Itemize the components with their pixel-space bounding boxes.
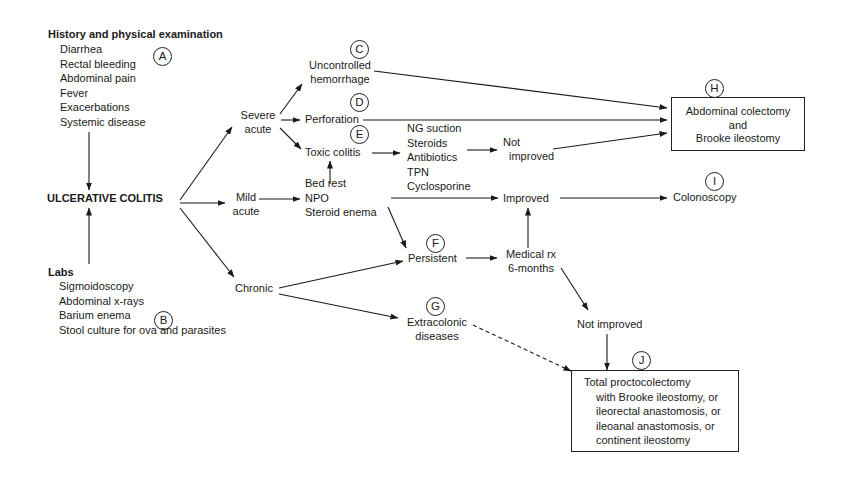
list-item: Abdominal pain (60, 72, 146, 87)
history-list: Diarrhea Rectal bleeding Abdominal pain … (60, 43, 146, 130)
list-item: Steroid enema (305, 206, 377, 221)
list-item: Diarrhea (60, 43, 146, 58)
label-g: G (426, 297, 445, 316)
colectomy-box: Abdominal colectomy and Brooke ileostomy (671, 97, 805, 151)
hemorrhage-node: Uncontrolled hemorrhage (304, 59, 376, 86)
labs-heading: Labs (48, 266, 74, 280)
list-item: Exacerbations (60, 101, 146, 116)
list-item: Barium enema (59, 309, 226, 324)
list-item: TPN (407, 166, 471, 181)
list-item: Sigmoidoscopy (59, 280, 226, 295)
list-item: Systemic disease (60, 116, 146, 131)
label-e: E (350, 125, 369, 144)
mild-treatment-list: Bed rest NPO Steroid enema (305, 177, 377, 221)
list-item: Stool culture for ova and parasites (59, 324, 226, 339)
list-item: Bed rest (305, 177, 377, 192)
labs-list: Sigmoidoscopy Abdominal x-rays Barium en… (59, 280, 226, 338)
list-item: Cyclosporine (407, 180, 471, 195)
colonoscopy-node: Colonoscopy (673, 191, 737, 205)
list-item: Steroids (407, 137, 471, 152)
label-j: J (632, 351, 651, 370)
chronic-node: Chronic (235, 282, 273, 296)
proctocolectomy-box: Total proctocolectomy with Brooke ileost… (571, 370, 739, 452)
list-item: Antibiotics (407, 151, 471, 166)
severe-acute-node: Severe acute (236, 109, 280, 136)
list-item: Abdominal x-rays (59, 295, 226, 310)
perforation-node: Perforation (305, 113, 359, 127)
label-h: H (705, 79, 724, 98)
list-item: Rectal bleeding (60, 58, 146, 73)
not-improved-medical-node: Not improved (577, 318, 642, 332)
toxic-treatment-list: NG suction Steroids Antibiotics TPN Cycl… (407, 122, 471, 195)
mild-acute-node: Mild acute (230, 191, 262, 218)
extracolonic-node: Extracolonic diseases (403, 316, 471, 343)
history-heading: History and physical examination (48, 28, 223, 42)
improved-node: Improved (503, 192, 549, 206)
persistent-node: Persistent (408, 252, 457, 266)
label-f: F (426, 234, 445, 253)
toxic-colitis-node: Toxic colitis (305, 146, 361, 160)
medical-rx-node: Medical rx 6-months (500, 248, 562, 275)
list-item: NPO (305, 192, 377, 207)
label-a: A (153, 47, 172, 66)
label-d: D (350, 93, 369, 112)
label-i: I (705, 172, 724, 191)
not-improved-toxic-node: Not improved (503, 136, 554, 163)
list-item: NG suction (407, 122, 471, 137)
label-c: C (350, 40, 369, 59)
central-node: ULCERATIVE COLITIS (47, 192, 163, 206)
list-item: Fever (60, 87, 146, 102)
